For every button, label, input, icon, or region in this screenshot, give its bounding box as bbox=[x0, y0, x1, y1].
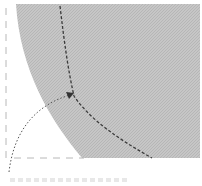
diagram-figure bbox=[0, 0, 202, 186]
clipped-caption bbox=[10, 178, 130, 182]
diagram-canvas bbox=[0, 0, 202, 186]
shaded-region bbox=[16, 4, 200, 158]
